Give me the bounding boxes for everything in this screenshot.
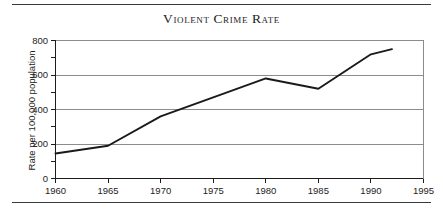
x-tick-label-1995: 1995 [413,185,434,196]
x-tick-label-1970: 1970 [150,185,171,196]
line-chart-plot: 0200400600800 19601965197019751980198519… [0,0,443,212]
y-major-ticks-group [51,41,56,179]
y-tick-label-0: 0 [43,173,48,184]
x-tick-label-1985: 1985 [308,185,329,196]
y-tick-label-400: 400 [32,104,48,115]
y-tick-labels: 0200400600800 [32,35,48,184]
x-tick-label-1980: 1980 [255,185,276,196]
x-tick-label-1965: 1965 [98,185,119,196]
x-ticks-group [56,179,424,184]
series-line-0 [56,49,392,153]
y-tick-label-800: 800 [32,35,48,46]
data-series-group [56,49,392,153]
y-tick-label-200: 200 [32,138,48,149]
x-tick-labels: 19601965197019751980198519901995 [45,185,434,196]
x-tick-label-1990: 1990 [360,185,381,196]
x-tick-label-1975: 1975 [203,185,224,196]
figure-container: Violent Crime Rate Rate per 100,000 popu… [0,0,443,212]
y-tick-label-600: 600 [32,69,48,80]
x-tick-label-1960: 1960 [45,185,66,196]
